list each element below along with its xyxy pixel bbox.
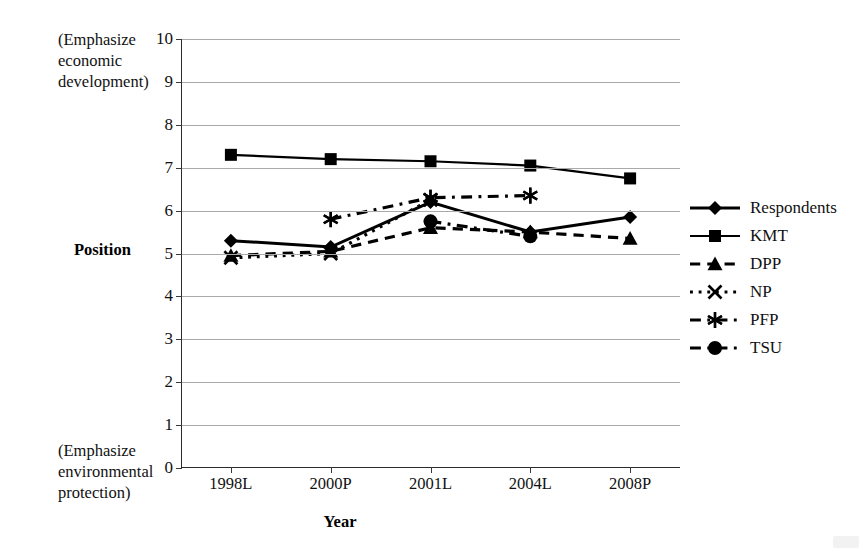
y-tick-label: 0 <box>133 458 173 478</box>
legend-item-kmt[interactable]: KMT <box>688 222 863 250</box>
x-tick-label: 1998L <box>209 474 252 494</box>
square-marker <box>225 149 237 161</box>
chart-figure: (Emphasize economic development) (Emphas… <box>0 0 867 554</box>
square-marker <box>425 155 437 167</box>
y-tick-label: 4 <box>133 286 173 306</box>
x-tick-label: 2001L <box>409 474 452 494</box>
y-tick-label: 6 <box>133 201 173 221</box>
gridline <box>181 211 680 212</box>
y-tick-mark <box>176 296 182 297</box>
y-tick-mark <box>176 39 182 40</box>
legend-label: TSU <box>746 338 782 358</box>
y-tick-label: 7 <box>133 158 173 178</box>
diamond-marker <box>708 201 722 215</box>
circle-marker <box>708 341 722 355</box>
y-axis-title: Position <box>74 240 131 260</box>
chart-legend: RespondentsKMTDPPNPPFPTSU <box>688 194 863 362</box>
x-tick-label: 2008P <box>609 474 651 494</box>
scan-artifact <box>833 536 859 548</box>
square-marker <box>709 230 721 242</box>
diamond-marker <box>623 210 637 224</box>
gridline <box>181 39 680 40</box>
x-tick-label: 2004L <box>509 474 552 494</box>
gridline <box>181 125 680 126</box>
legend-item-np[interactable]: NP <box>688 278 863 306</box>
cross-marker <box>709 286 722 299</box>
circle-marker <box>424 214 438 228</box>
y-tick-mark <box>176 125 182 126</box>
y-tick-label: 10 <box>133 29 173 49</box>
legend-item-respondents[interactable]: Respondents <box>688 194 863 222</box>
legend-label: Respondents <box>746 198 837 218</box>
legend-key-triangle-icon <box>688 253 746 275</box>
x-tick-mark <box>530 467 531 473</box>
plot-area <box>181 39 680 468</box>
legend-key-square-icon <box>688 225 746 247</box>
gridline <box>181 82 680 83</box>
gridline <box>181 382 680 383</box>
x-tick-label: 2000P <box>310 474 352 494</box>
x-tick-mark <box>231 467 232 473</box>
x-axis-tick-labels: 1998L2000P2001L2004L2008P <box>181 474 680 498</box>
y-tick-mark <box>176 168 182 169</box>
y-tick-label: 5 <box>133 244 173 264</box>
legend-key-star-icon <box>688 309 746 331</box>
legend-item-tsu[interactable]: TSU <box>688 334 863 362</box>
diamond-marker <box>224 234 238 248</box>
gridline <box>181 254 680 255</box>
y-tick-label: 1 <box>133 415 173 435</box>
legend-key-circle-icon <box>688 337 746 359</box>
y-tick-mark <box>176 82 182 83</box>
y-axis-tick-labels: 012345678910 <box>131 39 173 468</box>
legend-label: NP <box>746 282 772 302</box>
series-kmt <box>225 149 636 185</box>
legend-label: DPP <box>746 254 781 274</box>
x-tick-mark <box>431 467 432 473</box>
legend-label: KMT <box>746 226 788 246</box>
legend-item-dpp[interactable]: DPP <box>688 250 863 278</box>
square-marker <box>624 172 636 184</box>
y-tick-mark <box>176 339 182 340</box>
legend-key-cross-icon <box>688 281 746 303</box>
gridline <box>181 296 680 297</box>
y-tick-mark <box>176 382 182 383</box>
circle-marker <box>523 229 537 243</box>
y-tick-mark <box>176 425 182 426</box>
x-axis-title: Year <box>0 512 680 532</box>
star-marker <box>523 188 537 204</box>
y-tick-label: 8 <box>133 115 173 135</box>
gridline <box>181 168 680 169</box>
y-tick-mark <box>176 211 182 212</box>
square-marker <box>325 153 337 165</box>
triangle-marker <box>623 231 638 245</box>
y-tick-mark <box>176 254 182 255</box>
x-tick-mark <box>331 467 332 473</box>
gridline <box>181 425 680 426</box>
legend-item-pfp[interactable]: PFP <box>688 306 863 334</box>
y-tick-label: 9 <box>133 72 173 92</box>
y-tick-label: 3 <box>133 329 173 349</box>
x-tick-mark <box>630 467 631 473</box>
legend-key-diamond-icon <box>688 197 746 219</box>
y-tick-label: 2 <box>133 372 173 392</box>
y-tick-mark <box>176 468 182 469</box>
gridline <box>181 339 680 340</box>
legend-label: PFP <box>746 310 778 330</box>
square-marker <box>524 160 536 172</box>
